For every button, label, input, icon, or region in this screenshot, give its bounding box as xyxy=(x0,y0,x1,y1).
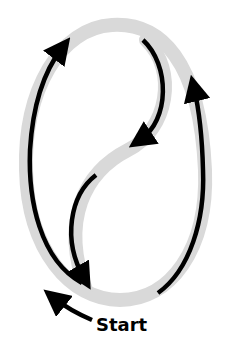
path-diagram: Start xyxy=(0,0,234,348)
start-label: Start xyxy=(96,314,148,335)
start-arrow xyxy=(54,298,92,320)
